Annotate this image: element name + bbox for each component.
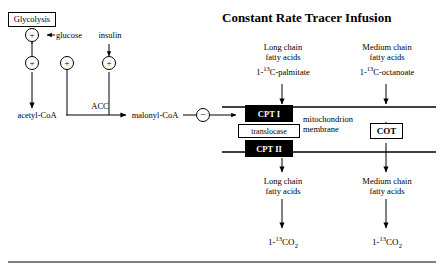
long-chain-top-label: Long chain fatty acids bbox=[244, 42, 322, 62]
medium-chain-top-label: Medium chain fatty acids bbox=[348, 42, 426, 62]
medium-chain-bottom-label: Medium chain fatty acids bbox=[348, 176, 426, 196]
malonyl-coa-label: malonyl-CoA bbox=[124, 110, 186, 120]
cot-box: COT bbox=[370, 123, 403, 139]
octanoate-post: C-octanoate bbox=[373, 67, 414, 77]
cpt1-box: CPT I bbox=[245, 105, 293, 122]
plus-circle-middle: + bbox=[60, 56, 74, 70]
plus-circle-insulin: + bbox=[102, 56, 116, 70]
mitochondrion-membrane-label: mitochondrion membrane bbox=[303, 114, 371, 134]
plus-circle-left: + bbox=[25, 56, 39, 70]
long-chain-bottom-label: Long chain fatty acids bbox=[244, 176, 322, 196]
mitochondrion-membrane-text: mitochondrion membrane bbox=[303, 114, 353, 134]
cpt2-box: CPT II bbox=[245, 140, 293, 157]
acc-label: ACC bbox=[86, 101, 114, 111]
minus-circle: − bbox=[196, 108, 210, 122]
co2-right-label: 1-13CO2 bbox=[356, 234, 418, 251]
long-chain-top-text: Long chain fatty acids bbox=[264, 42, 302, 62]
co2-left-sub: 2 bbox=[295, 242, 298, 249]
figure-title: Constant Rate Tracer Infusion bbox=[222, 10, 391, 26]
medium-chain-bottom-text: Medium chain fatty acids bbox=[362, 176, 411, 196]
long-chain-bottom-text: Long chain fatty acids bbox=[264, 176, 302, 196]
co2-left-post: CO bbox=[282, 237, 295, 247]
octanoate-pre: 1- bbox=[360, 67, 367, 77]
co2-left-pre: 1- bbox=[268, 237, 276, 247]
insulin-label: insulin bbox=[89, 30, 131, 40]
co2-right-pre: 1- bbox=[372, 237, 380, 247]
translocase-box: translocase bbox=[238, 124, 300, 138]
acetyl-coa-label: acetyl-CoA bbox=[8, 110, 66, 120]
palmitate-tracer-label: 1-13C-palmitate bbox=[240, 64, 326, 77]
co2-left-label: 1-13CO2 bbox=[252, 234, 314, 251]
co2-right-sub: 2 bbox=[399, 242, 402, 249]
medium-chain-top-text: Medium chain fatty acids bbox=[362, 42, 411, 62]
plus-circle-glucose: + bbox=[25, 28, 39, 42]
figure-canvas: Constant Rate Tracer Infusion bbox=[0, 0, 444, 272]
figure-title-text: Constant Rate Tracer Infusion bbox=[222, 10, 391, 25]
co2-right-post: CO bbox=[386, 237, 399, 247]
glycolysis-box: Glycolysis bbox=[8, 12, 56, 27]
octanoate-tracer-label: 1-13C-octanoate bbox=[340, 64, 434, 77]
palmitate-post: C-palmitate bbox=[270, 67, 310, 77]
